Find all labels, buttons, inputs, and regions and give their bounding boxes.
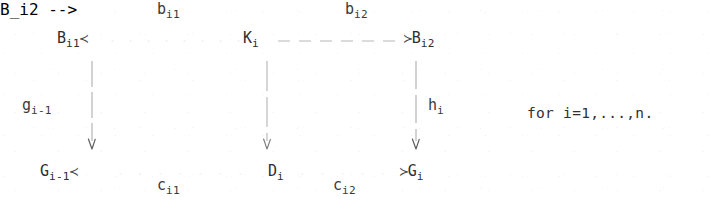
node-G-i-minus-1: Gi-1≺	[40, 164, 78, 182]
morphism-b-i1-line	[110, 38, 258, 44]
node-G-i-minus-1-base: G	[40, 164, 49, 179]
node-D-i-sub: i	[277, 171, 284, 182]
arrowhead-right-icon: ≻	[403, 32, 412, 45]
node-G-i-minus-1-sub: i-1	[49, 171, 70, 182]
node-G-i-sub: i	[417, 171, 424, 182]
morphism-g-arrow	[82, 61, 104, 155]
morphism-c-i2-line	[300, 171, 408, 177]
node-B-i1: Bi1≺	[57, 31, 88, 49]
arrow-label-h-i: hi	[428, 98, 444, 116]
arrow-label-g-sub: i-1	[31, 105, 52, 116]
arrow-label-c-i2: ci2	[333, 178, 356, 196]
node-K-i: Ki	[243, 31, 259, 49]
morphism-h-arrow	[406, 61, 428, 155]
arrow-label-b-i2-sub: i2	[354, 9, 368, 20]
arrow-label-h-sub: i	[437, 105, 444, 116]
node-B-i1-base: B	[57, 31, 66, 46]
arrow-label-h-base: h	[428, 98, 437, 113]
arrow-label-b-i1-base: b	[157, 2, 166, 17]
arrow-label-g-base: g	[22, 98, 31, 113]
node-K-i-sub: i	[252, 38, 259, 49]
node-G-i: ≻Gi	[400, 164, 424, 182]
arrow-label-b-i2: bi2	[345, 2, 368, 20]
node-B-i1-sub: i1	[66, 38, 80, 49]
arrow-label-c-i2-base: c	[333, 178, 342, 193]
arrow-label-c-i1-sub: i1	[166, 185, 180, 196]
arrow-label-b-i1-sub: i1	[166, 9, 180, 20]
diagram-canvas: bi1 Bi1≺ Ki bi2 B_i2 --> ≻Bi2 gi-1	[0, 0, 718, 212]
index-range-annotation: for i=1,...,n.	[527, 105, 653, 121]
node-B-i2-base: B	[412, 31, 421, 46]
node-B-i2: ≻Bi2	[404, 31, 435, 49]
arrow-label-c-i2-sub: i2	[342, 185, 356, 196]
arrow-label-b-i2-base: b	[345, 2, 354, 17]
morphism-middle-arrow	[257, 61, 279, 155]
node-D-i-base: D	[268, 164, 277, 179]
node-D-i: Di	[268, 164, 284, 182]
arrowhead-right-icon-bottom: ≻	[399, 165, 408, 178]
node-B-i2-sub: i2	[421, 38, 435, 49]
morphism-c-i1-line	[118, 171, 258, 177]
arrow-label-c-i1: ci1	[157, 178, 180, 196]
node-G-i-base: G	[408, 164, 417, 179]
arrow-label-g-i-minus-1: gi-1	[22, 98, 52, 116]
arrow-label-c-i1-base: c	[157, 178, 166, 193]
arrowhead-left-icon-bottom: ≺	[69, 165, 78, 178]
arrow-label-b-i1: bi1	[157, 2, 180, 20]
node-K-i-base: K	[243, 31, 252, 46]
morphism-b-i2-line	[278, 38, 408, 44]
arrowhead-left-icon: ≺	[79, 32, 88, 45]
